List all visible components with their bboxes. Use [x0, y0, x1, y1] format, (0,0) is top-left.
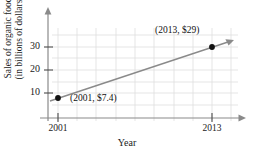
y-axis-title-line1: Sales of organic food — [3, 0, 14, 92]
x-axis-title: Year — [0, 138, 254, 149]
x-tick-label-2013: 2013 — [192, 124, 232, 134]
chart-container: Sales of organic food (in billions of do… — [0, 0, 254, 155]
annotation-2013: (2013, $29) — [155, 26, 199, 36]
x-axis-arrowhead — [239, 115, 247, 122]
annotation-2001: (2001, $7.4) — [70, 94, 117, 104]
y-axis-arrowhead — [45, 7, 52, 15]
x-axis — [40, 115, 246, 122]
x-tick-label-2001: 2001 — [38, 124, 78, 134]
data-point-2013[interactable] — [209, 44, 215, 50]
y-tick-label-20: 20 — [22, 64, 40, 75]
data-point-2001[interactable] — [55, 95, 61, 101]
grid-lines-vertical — [58, 28, 231, 121]
y-tick-label-10: 10 — [22, 87, 40, 98]
y-tick-label-30: 30 — [22, 41, 40, 52]
y-axis — [45, 7, 52, 121]
